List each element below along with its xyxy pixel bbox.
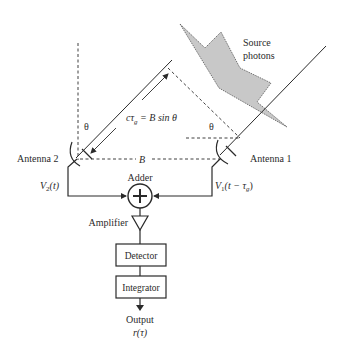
v2-arrow-icon [121, 193, 127, 199]
source-photons-shape [180, 24, 287, 127]
antenna2-label: Antenna 2 [17, 153, 58, 164]
output-arrow-icon [136, 305, 144, 311]
antenna1-feed [226, 146, 236, 156]
antenna1-mount [154, 159, 220, 196]
source-label-line1: Source [243, 37, 271, 48]
interferometer-diagram: Source photons cτg = B sin θ θ θ B Anten… [0, 0, 345, 351]
adder-label: Adder [128, 172, 154, 183]
source-label-line2: photons [243, 50, 275, 61]
antenna1-label: Antenna 1 [250, 153, 291, 164]
v1-arrow-icon [153, 193, 159, 199]
baseline-label: B [139, 154, 145, 165]
antenna2-dish-icon [70, 142, 80, 166]
detector-label: Detector [125, 251, 159, 261]
integrator-label: Integrator [122, 283, 160, 293]
theta-left: θ [84, 121, 89, 132]
antenna2-feed [82, 149, 92, 159]
antenna2-mount [68, 159, 126, 196]
delay-equation: cτg = B sin θ [126, 112, 177, 126]
delay-arrow-down [91, 128, 116, 153]
output-function: r(τ) [133, 327, 148, 339]
theta-right: θ [209, 121, 214, 132]
amplifier-label: Amplifier [89, 217, 129, 228]
amplifier-icon [132, 216, 148, 230]
antenna2-source-ray [76, 60, 172, 158]
v1-label: V1(t − τg) [215, 180, 253, 193]
v2-label: V2(t) [40, 180, 60, 193]
output-label: Output [126, 314, 154, 325]
